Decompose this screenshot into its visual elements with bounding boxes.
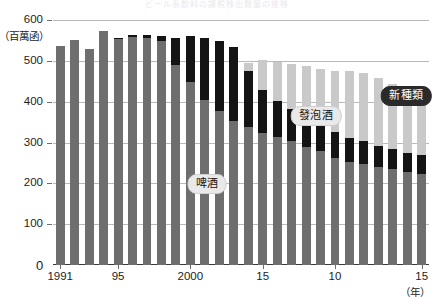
bar-segment-1 [388,149,397,169]
bar-segment-0 [287,141,296,265]
x-axis-tick [60,265,61,269]
bar-segment-1 [244,71,253,127]
y-axis-tick [47,20,52,21]
bar-segment-1 [171,38,180,65]
bar-group[interactable] [215,20,224,265]
bar-segment-1 [186,36,195,81]
x-axis-tick-label: 15 [256,270,269,282]
bar-segment-1 [359,141,368,163]
y-axis-zero-label: 0 [36,258,43,273]
bar-segment-1 [229,47,238,121]
series-label-2: 新種類 [381,86,432,106]
bar-segment-1 [345,138,354,162]
bar-segment-1 [200,38,209,100]
bar-segment-0 [229,121,238,265]
bar-group[interactable] [114,20,123,265]
bar-segment-2 [287,64,296,109]
bar-group[interactable] [157,20,166,265]
bar-segment-1 [157,36,166,41]
bar-group[interactable] [229,20,238,265]
bar-segment-1 [374,146,383,167]
bar-group[interactable] [85,20,94,265]
bar-group[interactable] [403,20,412,265]
y-axis-tick-label: 500 [1,54,43,66]
bar-segment-1 [273,101,282,137]
bar-group[interactable] [143,20,152,265]
bar-group[interactable] [258,20,267,265]
bar-segment-0 [244,127,253,265]
y-axis-tick [47,102,52,103]
chart-title: ビール系飲料の課税移出数量の推移 [0,0,433,9]
bar-segment-1 [114,38,123,39]
bar-segment-2 [273,62,282,100]
bar-group[interactable] [388,20,397,265]
x-axis-tick-label: 2000 [178,270,204,282]
chart-container: ビール系飲料の課税移出数量の推移 （百萬函） 0 100200300400500… [0,0,433,297]
x-axis-tick-label: 1991 [47,270,73,282]
bar-segment-0 [403,172,412,265]
bar-group[interactable] [56,20,65,265]
bar-segment-2 [374,78,383,145]
bar-segment-0 [331,158,340,265]
x-axis-tick [263,265,264,269]
bar-segment-1 [258,90,267,133]
series-label-0: 啤酒 [188,174,227,194]
gridline [53,224,429,225]
x-axis-tick [118,265,119,269]
bar-segment-0 [56,46,65,265]
bar-segment-0 [417,174,426,265]
x-axis-unit-label: （年） [400,284,430,297]
bar-group[interactable] [273,20,282,265]
bar-segment-1 [215,41,224,111]
series-label-1: 發泡酒 [291,106,342,126]
bar-segment-0 [171,65,180,265]
y-axis-tick [47,143,52,144]
y-axis-tick-label: 300 [1,136,43,148]
bar-segment-0 [186,82,195,265]
bar-segment-0 [302,147,311,265]
bar-segment-0 [143,38,152,265]
bar-group[interactable] [417,20,426,265]
bar-group[interactable] [99,20,108,265]
y-axis-tick-label: 400 [1,95,43,107]
y-axis-unit-label: （百萬函） [0,28,49,43]
bar-group[interactable] [302,20,311,265]
x-axis-tick [190,265,191,269]
bar-group[interactable] [244,20,253,265]
bar-segment-2 [359,73,368,141]
bar-group[interactable] [331,20,340,265]
bar-segment-0 [273,137,282,265]
bar-segment-2 [244,63,253,71]
bar-group[interactable] [186,20,195,265]
y-axis-tick-label: 200 [1,176,43,188]
bar-group[interactable] [345,20,354,265]
bar-group[interactable] [128,20,137,265]
bar-group[interactable] [374,20,383,265]
bar-segment-0 [85,49,94,265]
bar-group[interactable] [171,20,180,265]
gridline [53,102,429,103]
bar-group[interactable] [70,20,79,265]
bar-group[interactable] [359,20,368,265]
gridline [53,61,429,62]
bar-segment-1 [403,153,412,172]
x-axis-tick [422,265,423,269]
bar-group[interactable] [316,20,325,265]
bar-segment-1 [316,124,325,151]
bar-segment-0 [128,37,137,265]
bar-segment-2 [258,60,267,90]
bar-segment-0 [70,40,79,265]
bar-group[interactable] [200,20,209,265]
gridline [53,20,429,21]
bar-segment-0 [157,41,166,265]
bar-segment-0 [359,164,368,265]
bar-group[interactable] [287,20,296,265]
bar-segment-0 [99,31,108,265]
y-axis-tick [47,61,52,62]
x-axis-tick-label: 15 [415,270,428,282]
plot-area [53,20,429,265]
gridline [53,183,429,184]
bar-segment-0 [374,167,383,265]
bar-segment-0 [316,151,325,265]
bar-segment-0 [345,162,354,265]
